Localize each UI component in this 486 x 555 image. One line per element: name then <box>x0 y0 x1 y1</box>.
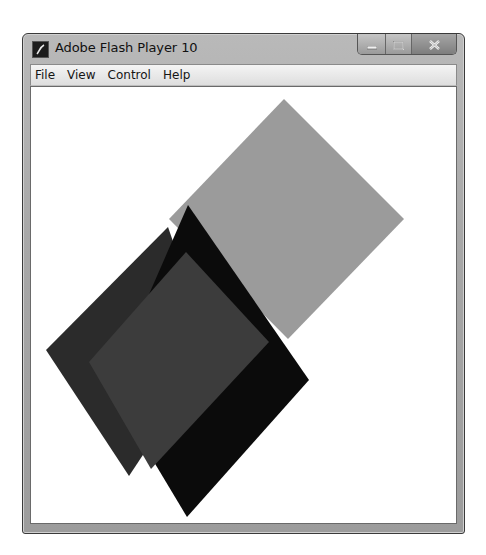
close-icon <box>429 35 440 54</box>
menu-view[interactable]: View <box>61 65 101 85</box>
flash-player-icon <box>32 41 49 58</box>
maximize-icon <box>393 35 404 54</box>
menu-help[interactable]: Help <box>157 65 196 85</box>
menu-file[interactable]: File <box>31 65 61 85</box>
minimize-icon <box>367 35 377 54</box>
window-title: Adobe Flash Player 10 <box>55 40 197 55</box>
maximize-button[interactable] <box>386 34 412 54</box>
flash-player-window: Adobe Flash Player 10 File View Control <box>22 33 465 534</box>
title-bar[interactable]: Adobe Flash Player 10 <box>23 34 464 63</box>
menu-control[interactable]: Control <box>102 65 157 85</box>
minimize-button[interactable] <box>358 34 386 54</box>
close-button[interactable] <box>412 34 456 54</box>
menu-bar: File View Control Help <box>30 64 457 86</box>
stage-canvas <box>31 87 456 524</box>
caption-buttons <box>357 34 457 55</box>
flash-stage[interactable] <box>30 86 457 524</box>
